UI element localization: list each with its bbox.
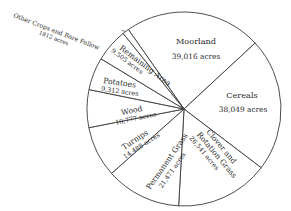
pie-chart: Moorland 39,016 acres Cereals 38,049 acr… [0,0,291,211]
value-moorland: 39,016 acres [172,52,221,61]
leader-line-other-crops [122,30,126,31]
label-other-crops: Other Crops and Bare Fallow [12,11,101,52]
label-moorland: Moorland [176,36,216,46]
label-cereals: Cereals [226,90,258,100]
value-cereals: 38,049 acres [219,105,268,114]
